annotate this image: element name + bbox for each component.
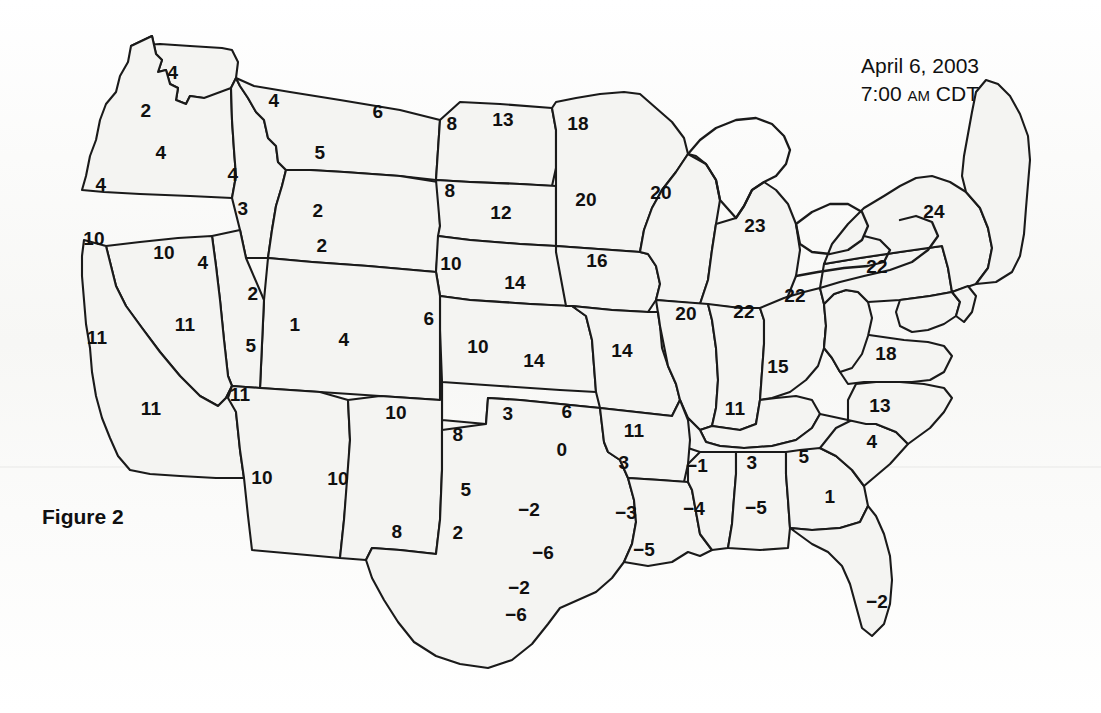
map-value-label: 3 [503, 404, 514, 423]
map-value-label: 5 [461, 480, 472, 499]
map-value-label: 1 [290, 315, 301, 334]
map-value-label: 11 [624, 421, 645, 440]
map-value-label: −6 [532, 543, 554, 562]
map-value-label: 6 [424, 309, 435, 328]
map-value-label: 2 [453, 523, 464, 542]
map-value-label: 5 [315, 143, 326, 162]
map-value-label: 4 [228, 165, 239, 184]
map-value-label: 11 [141, 399, 162, 418]
map-value-label: 20 [650, 183, 672, 202]
map-value-label: 14 [611, 341, 633, 360]
map-value-label: 4 [339, 330, 350, 349]
header-time-meridiem: AM [907, 87, 930, 104]
map-value-label: 22 [866, 257, 888, 276]
map-value-label: 2 [313, 201, 324, 220]
map-value-label: 8 [447, 114, 458, 133]
map-value-label: 10 [467, 337, 489, 356]
map-value-label: 8 [392, 522, 403, 541]
map-value-label: 4 [156, 143, 167, 162]
map-value-label: 23 [744, 216, 766, 235]
map-value-label: 8 [453, 425, 464, 444]
map-value-label: −5 [745, 498, 767, 517]
map-value-label: 3 [238, 199, 249, 218]
map-value-label: −2 [508, 578, 530, 597]
figure-page: April 6, 2003 7:00 AM CDT Figure 2 42444… [0, 0, 1101, 713]
map-value-label: 8 [445, 181, 456, 200]
map-value-label: 6 [562, 402, 573, 421]
map-value-label: 10 [385, 403, 407, 422]
map-value-label: −3 [615, 503, 637, 522]
map-value-label: 16 [586, 251, 608, 270]
header-date: April 6, 2003 [861, 52, 979, 80]
map-header: April 6, 2003 7:00 AM CDT [861, 52, 979, 107]
map-value-label: 22 [784, 286, 806, 305]
header-time-value: 7:00 [861, 82, 902, 105]
map-value-label: 4 [269, 91, 280, 110]
map-value-label: 10 [327, 469, 349, 488]
map-value-label: −1 [686, 456, 708, 475]
map-value-label: 4 [168, 63, 179, 82]
map-value-label: 20 [675, 304, 697, 323]
map-value-label: 14 [523, 351, 545, 370]
map-value-label: 15 [767, 357, 789, 376]
map-value-label: 20 [575, 190, 597, 209]
map-value-label: 11 [725, 399, 746, 418]
map-value-label: 10 [251, 468, 273, 487]
map-value-label: 3 [747, 453, 758, 472]
map-value-label: 2 [317, 236, 328, 255]
map-value-label: 3 [619, 453, 630, 472]
map-value-label: 10 [83, 229, 105, 248]
header-time: 7:00 AM CDT [861, 80, 979, 108]
map-value-label: 2 [248, 284, 259, 303]
map-value-label: −6 [505, 605, 527, 624]
map-value-label: 13 [869, 396, 891, 415]
map-value-label: 22 [733, 302, 755, 321]
map-value-label: −2 [518, 500, 540, 519]
map-value-label: 11 [175, 315, 196, 334]
figure-caption: Figure 2 [42, 505, 124, 529]
map-value-label: 18 [875, 344, 897, 363]
map-value-label: 0 [557, 440, 568, 459]
map-value-label: −4 [683, 499, 705, 518]
map-value-label: 12 [490, 203, 512, 222]
map-value-label: 10 [153, 243, 175, 262]
map-value-label: 18 [567, 114, 589, 133]
map-value-label: 6 [373, 102, 384, 121]
map-value-label: 4 [198, 253, 209, 272]
map-value-label: 10 [440, 254, 462, 273]
map-value-label: 13 [492, 110, 514, 129]
map-value-label: −2 [866, 592, 888, 611]
map-value-label: 11 [230, 385, 251, 404]
map-value-label: 4 [867, 432, 878, 451]
map-value-label: 11 [87, 328, 108, 347]
map-value-label: 4 [96, 175, 107, 194]
header-time-zone: CDT [936, 82, 979, 105]
map-value-label: 5 [799, 447, 810, 466]
map-value-label: 1 [825, 487, 836, 506]
map-value-label: −5 [633, 540, 655, 559]
map-value-label: 2 [141, 101, 152, 120]
map-value-label: 5 [246, 336, 257, 355]
map-value-label: 14 [504, 273, 526, 292]
map-value-label: 24 [923, 202, 945, 221]
